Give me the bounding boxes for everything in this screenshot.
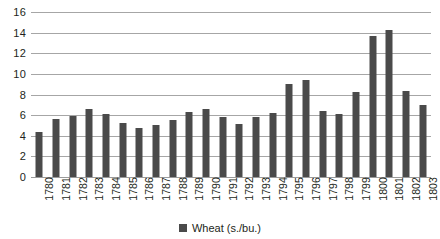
bar[interactable]	[269, 113, 276, 177]
bar-slot	[314, 12, 331, 177]
x-tick-label-1786: 1786	[144, 177, 155, 219]
x-tick-label-1787: 1787	[161, 177, 172, 219]
x-tick-label-1780: 1780	[44, 177, 55, 219]
x-axis-tick-labels: 1780178117821783178417851786178717881789…	[31, 179, 431, 221]
bar-slot	[231, 12, 248, 177]
bar[interactable]	[152, 125, 159, 177]
x-tick-label-1796: 1796	[311, 177, 322, 219]
x-tick-label-1790: 1790	[211, 177, 222, 219]
y-tick-label-8: 8	[20, 89, 26, 100]
bar[interactable]	[302, 80, 309, 177]
x-tick-label-1800: 1800	[378, 177, 389, 219]
x-tick-label-1792: 1792	[244, 177, 255, 219]
bar-slot	[131, 12, 148, 177]
x-tick-label-1799: 1799	[361, 177, 372, 219]
bar-slot	[414, 12, 431, 177]
bar[interactable]	[219, 117, 226, 177]
x-tick-label-1793: 1793	[261, 177, 272, 219]
x-tick-label-1791: 1791	[228, 177, 239, 219]
bar-slot	[214, 12, 231, 177]
bar-slot	[264, 12, 281, 177]
legend-swatch-wheat	[179, 224, 187, 232]
y-axis-tick-labels: 0246810121416	[0, 12, 26, 177]
bar[interactable]	[236, 124, 243, 177]
bar[interactable]	[419, 105, 426, 177]
bar-slot	[181, 12, 198, 177]
x-tick-label-1781: 1781	[61, 177, 72, 219]
bar-slot	[281, 12, 298, 177]
y-tick-label-0: 0	[20, 172, 26, 183]
bar-slot	[148, 12, 165, 177]
legend-label-wheat: Wheat (s./bu.)	[192, 223, 261, 234]
x-tick-label-1795: 1795	[294, 177, 305, 219]
bar[interactable]	[119, 123, 126, 177]
x-tick-label-1788: 1788	[178, 177, 189, 219]
bar[interactable]	[402, 91, 409, 177]
bar-slot	[298, 12, 315, 177]
x-tick-label-1802: 1802	[411, 177, 422, 219]
bar-slot	[164, 12, 181, 177]
y-tick-label-4: 4	[20, 130, 26, 141]
bar[interactable]	[169, 120, 176, 177]
bar[interactable]	[136, 128, 143, 177]
y-tick-label-2: 2	[20, 151, 26, 162]
x-tick-label-1782: 1782	[78, 177, 89, 219]
bar-slot	[48, 12, 65, 177]
bar[interactable]	[369, 36, 376, 177]
bar[interactable]	[286, 84, 293, 177]
bar-slot	[81, 12, 98, 177]
bar[interactable]	[69, 116, 76, 177]
bar-slot	[331, 12, 348, 177]
legend: Wheat (s./bu.)	[0, 220, 440, 236]
x-tick-label-1803: 1803	[428, 177, 439, 219]
bar-slot	[248, 12, 265, 177]
plot-area	[31, 12, 431, 177]
bar[interactable]	[102, 114, 109, 177]
y-tick-label-10: 10	[13, 68, 26, 79]
bar-slot	[348, 12, 365, 177]
bar[interactable]	[86, 109, 93, 177]
bar[interactable]	[36, 132, 43, 177]
bar-slot	[64, 12, 81, 177]
bar[interactable]	[186, 112, 193, 177]
x-tick-label-1789: 1789	[194, 177, 205, 219]
bar-slot	[398, 12, 415, 177]
bar-slot	[31, 12, 48, 177]
y-tick-label-14: 14	[13, 27, 26, 38]
y-tick-label-6: 6	[20, 110, 26, 121]
bar[interactable]	[336, 114, 343, 177]
bar[interactable]	[252, 117, 259, 177]
bar[interactable]	[386, 30, 393, 177]
y-tick-label-12: 12	[13, 48, 26, 59]
bar[interactable]	[319, 111, 326, 177]
x-tick-label-1783: 1783	[94, 177, 105, 219]
bar-slot	[381, 12, 398, 177]
bar[interactable]	[52, 119, 59, 177]
x-tick-label-1798: 1798	[344, 177, 355, 219]
bar-chart: 0246810121416 17801781178217831784178517…	[0, 0, 440, 239]
bar[interactable]	[352, 92, 359, 177]
bar-slot	[364, 12, 381, 177]
x-tick-label-1801: 1801	[394, 177, 405, 219]
bar-series-wheat	[31, 12, 431, 177]
x-tick-label-1785: 1785	[128, 177, 139, 219]
bar-slot	[98, 12, 115, 177]
bar-slot	[114, 12, 131, 177]
bar-slot	[198, 12, 215, 177]
x-tick-label-1784: 1784	[111, 177, 122, 219]
x-tick-label-1794: 1794	[278, 177, 289, 219]
y-tick-label-16: 16	[13, 7, 26, 18]
x-tick-label-1797: 1797	[328, 177, 339, 219]
bar[interactable]	[202, 109, 209, 177]
